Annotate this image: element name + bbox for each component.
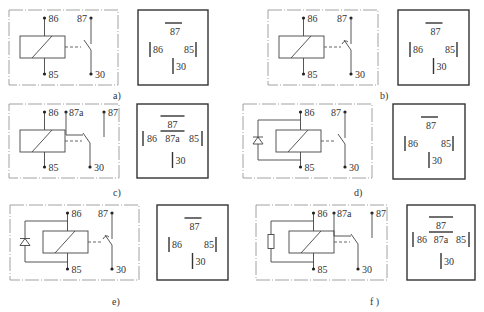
pin-85-label: 85	[308, 69, 318, 80]
relay-panel-a: 8685873087868530a)	[9, 10, 208, 102]
delay-hook	[103, 236, 109, 239]
diode-icon	[20, 239, 30, 246]
pin-87a-label: 87a	[69, 107, 84, 118]
socket-layout-e: 87868530	[157, 205, 228, 280]
socket-30-label: 30	[432, 155, 442, 166]
diode-triangle	[20, 239, 30, 246]
pin-85-terminal	[43, 165, 46, 168]
socket-30-label: 30	[444, 256, 454, 267]
socket-85-label: 85	[441, 138, 451, 149]
diode-icon	[253, 137, 263, 144]
pin-86-terminal	[43, 16, 46, 19]
socket-87-label: 87	[190, 221, 200, 232]
pin-85-terminal	[66, 267, 69, 270]
pin-85-label: 85	[49, 69, 59, 80]
panel-caption: e)	[112, 296, 120, 308]
socket-layout-b: 87868530	[398, 10, 469, 85]
socket-30-label: 30	[437, 61, 447, 72]
socket-87-label: 87	[436, 220, 446, 231]
socket-layout-c: 8787a868530	[137, 104, 208, 178]
switch-blade	[351, 234, 358, 269]
socket-87a-label: 87a	[434, 234, 449, 245]
switch-blade	[105, 235, 112, 269]
pin-30-label: 30	[94, 162, 104, 173]
pin-87-label: 87	[376, 208, 386, 219]
relay-panel-f: 868587a87308787a868530f )	[256, 205, 475, 308]
socket-86-label: 86	[147, 133, 157, 144]
schematic-c: 868587a8730	[9, 104, 119, 178]
pin-86-label: 86	[72, 208, 82, 219]
switch-blade	[83, 133, 90, 167]
pin-30-label: 30	[349, 162, 359, 173]
pin-30-label: 30	[95, 69, 105, 80]
pin-30-label: 30	[116, 264, 126, 275]
switch-blade	[338, 134, 345, 167]
pin-86-terminal	[66, 211, 69, 214]
relay-panel-b: 8685873087868530b)	[268, 10, 469, 102]
panel-caption: a)	[113, 90, 121, 102]
resistor-icon	[268, 235, 274, 249]
pin-86-label: 86	[49, 13, 59, 24]
socket-86-label: 86	[408, 138, 418, 149]
panel-caption: c)	[113, 187, 121, 199]
socket-86-label: 86	[153, 44, 163, 55]
socket-85-label: 85	[204, 239, 214, 250]
schematic-f: 868587a8730	[256, 205, 387, 280]
pin-87-label: 87	[77, 13, 87, 24]
pin-86-label: 86	[308, 13, 318, 24]
schematic-d: 86858730	[243, 104, 372, 178]
socket-87a-label: 87a	[165, 133, 180, 144]
socket-30-label: 30	[176, 155, 186, 166]
diode-triangle	[253, 137, 263, 144]
socket-layout-d: 87868530	[393, 104, 465, 179]
pin-85-label: 85	[305, 162, 315, 173]
relay-panel-e: 8685873087868530e)	[10, 205, 228, 308]
socket-87-label: 87	[170, 26, 180, 37]
pin-87-label: 87	[108, 107, 118, 118]
socket-87-label: 87	[431, 26, 441, 37]
pin-30-terminal	[88, 165, 91, 168]
delay-hook	[342, 41, 348, 44]
pin-30-terminal	[89, 72, 92, 75]
pin-86-label: 86	[49, 107, 59, 118]
pin-85-terminal	[312, 267, 315, 270]
socket-85-label: 85	[189, 133, 199, 144]
switch-blade	[344, 40, 351, 74]
pin-30-terminal	[343, 165, 346, 168]
pin-87a-label: 87a	[337, 208, 352, 219]
relay-panel-d: 8685873087868530d)	[243, 104, 465, 199]
panel-caption: f )	[370, 296, 379, 308]
schematic-e: 86858730	[10, 205, 139, 280]
pin-87-label: 87	[337, 13, 347, 24]
panel-caption: d)	[354, 187, 362, 199]
socket-30-label: 30	[176, 61, 186, 72]
pin-30-label: 30	[362, 264, 372, 275]
pin-85-label: 85	[318, 264, 328, 275]
socket-85-label: 85	[456, 234, 466, 245]
pin-85-terminal	[299, 165, 302, 168]
pin-85-label: 85	[49, 162, 59, 173]
pin-85-terminal	[43, 72, 46, 75]
pin-86-label: 86	[318, 208, 328, 219]
socket-layout-a: 87868530	[138, 10, 208, 85]
socket-87-label: 87	[426, 120, 436, 131]
schematic-b: 86858730	[268, 10, 378, 85]
pin-86-terminal	[302, 16, 305, 19]
pin-30-terminal	[349, 72, 352, 75]
pin-85-label: 85	[72, 264, 82, 275]
socket-30-label: 30	[196, 256, 206, 267]
pin-86-terminal	[299, 110, 302, 113]
socket-86-label: 86	[413, 44, 423, 55]
switch-blade	[84, 40, 91, 74]
socket-86-label: 86	[172, 239, 182, 250]
socket-87-label: 87	[168, 119, 178, 130]
pin-86-label: 86	[305, 107, 315, 118]
pin-86-terminal	[312, 211, 315, 214]
relay-diagram-sheet: 8685873087868530a)8685873087868530b)8685…	[0, 0, 484, 312]
socket-85-label: 85	[445, 44, 455, 55]
pin-30-terminal	[356, 267, 359, 270]
pin-85-terminal	[302, 72, 305, 75]
pin-86-terminal	[43, 110, 46, 113]
socket-85-label: 85	[184, 44, 194, 55]
socket-layout-f: 8787a868530	[407, 205, 475, 280]
